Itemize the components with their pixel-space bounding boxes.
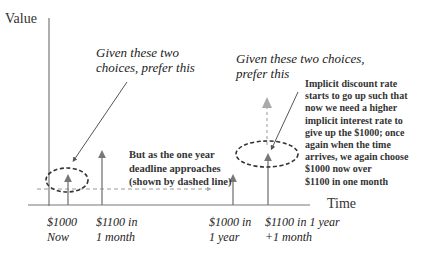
annotation-line: But as the one year — [129, 148, 231, 162]
annotation-line: $1000 now over — [305, 163, 408, 175]
tick-line: 1 month — [96, 230, 137, 245]
tick-label-1000-1-year: $1000 in 1 year — [209, 215, 251, 245]
tick-line: $1100 in 1 year — [265, 215, 340, 230]
annotation-line: Given these two choices, — [236, 52, 365, 67]
tick-line: +1 month — [265, 230, 340, 245]
y-axis-label: Value — [5, 11, 37, 27]
annotation-line: give up the $1000; once — [305, 127, 408, 139]
tick-line: 1 year — [209, 230, 251, 245]
tick-line: $1000 — [47, 215, 77, 230]
tick-label-1000-now: $1000 Now — [47, 215, 77, 245]
leader-line-left — [74, 82, 127, 160]
annotation-middle-note: But as the one year deadline approaches … — [129, 148, 231, 189]
annotation-left-prefer: Given these two choices, prefer this — [96, 46, 195, 76]
annotation-line: $1100 in one month — [305, 176, 408, 188]
annotation-line: Given these two — [96, 46, 195, 61]
rising-value-arrowhead — [262, 97, 272, 108]
annotation-right-note: Implicit discount rate starts to go up s… — [305, 78, 408, 188]
annotation-line: deadline approaches — [129, 162, 231, 176]
annotation-line: (shown by dashed line) — [129, 175, 231, 189]
tick-label-1100-1-year-1-month: $1100 in 1 year +1 month — [265, 215, 340, 245]
annotation-line: starts to go up such that — [305, 90, 408, 102]
annotation-line: implicit interest rate to — [305, 115, 408, 127]
x-axis-label: Time — [327, 196, 356, 212]
annotation-line: choices, prefer this — [96, 61, 195, 76]
tick-line: Now — [47, 230, 77, 245]
leader-line-right — [272, 92, 298, 148]
annotation-line: again when the time — [305, 139, 408, 151]
annotation-line: arrives, we again choose — [305, 151, 408, 163]
tick-line: $1000 in — [209, 215, 251, 230]
annotation-line: now we need a higher — [305, 102, 408, 114]
tick-label-1100-1-month: $1100 in 1 month — [96, 215, 137, 245]
annotation-line: Implicit discount rate — [305, 78, 408, 90]
tick-line: $1100 in — [96, 215, 137, 230]
